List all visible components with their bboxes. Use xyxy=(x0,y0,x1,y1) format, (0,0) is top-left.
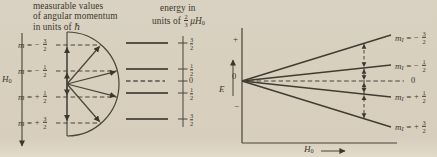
m-symbol: m xyxy=(18,92,25,102)
fraction: 32 xyxy=(190,37,193,51)
sign: + xyxy=(35,92,40,102)
fraction-denominator: 2 xyxy=(190,44,193,52)
e-symbol-label: E xyxy=(219,84,225,94)
h-symbol: H xyxy=(2,74,9,84)
fraction: 32 xyxy=(422,120,425,134)
sign: − xyxy=(414,61,419,71)
tick-label-3-2-lower: 32 xyxy=(189,110,193,127)
m-symbol: m xyxy=(395,92,402,102)
mI-label-plus-3-2: mI=+32 xyxy=(395,120,426,134)
fraction-denominator: 3 xyxy=(184,20,187,28)
fraction-denominator: 2 xyxy=(43,122,46,130)
fraction: 32 xyxy=(190,113,193,127)
m-symbol: m xyxy=(18,40,25,50)
right-zero-label: 0 xyxy=(411,76,415,86)
fraction-denominator: 2 xyxy=(190,94,193,102)
energy-header-line1: energy in xyxy=(160,3,196,13)
m-label-minus-3-2: m=−32 xyxy=(18,38,47,52)
m-symbol: m xyxy=(18,118,25,128)
m-label-plus-1-2: m=+12 xyxy=(18,90,47,104)
left-header-line2: of angular momentum xyxy=(33,11,118,21)
m-symbol: m xyxy=(395,122,402,132)
fraction-denominator: 2 xyxy=(422,65,425,73)
fraction: 12 xyxy=(43,64,46,78)
m-symbol: m xyxy=(395,61,402,71)
minus-sign-label: − xyxy=(234,101,239,111)
energy-level-lines xyxy=(126,43,168,119)
units-of-text: units of xyxy=(152,16,181,26)
sign: − xyxy=(35,66,40,76)
tick-label-3-2-upper: 32 xyxy=(189,34,193,51)
two-thirds-fraction: 23 xyxy=(184,14,187,28)
equals-sign: = xyxy=(406,61,411,71)
sign: − xyxy=(35,40,40,50)
plus-sign-label: + xyxy=(233,34,238,44)
m-level-dashed-lines xyxy=(56,45,117,123)
fraction-denominator: 2 xyxy=(43,96,46,104)
equals-sign: = xyxy=(27,92,32,102)
I-subscript: I xyxy=(402,96,404,102)
x-axis-label-h0: H0 xyxy=(304,144,314,154)
left-header: measurable values of angular momentum in… xyxy=(33,1,118,32)
mI-label-minus-1-2: mI=−12 xyxy=(395,59,426,73)
e-zero-label: 0 xyxy=(232,72,236,82)
equals-sign: = xyxy=(27,118,32,128)
equals-sign: = xyxy=(406,92,411,102)
fraction-denominator: 2 xyxy=(43,44,46,52)
m-label-minus-1-2: m=−12 xyxy=(18,64,47,78)
sign: + xyxy=(35,118,40,128)
energy-level-column xyxy=(126,36,188,127)
equals-sign: = xyxy=(27,66,32,76)
angular-momentum-vectors xyxy=(67,47,116,122)
energy-vs-field-plot xyxy=(242,28,404,151)
fraction: 12 xyxy=(422,90,425,104)
energy-header-line2: units of23μH0 xyxy=(152,14,205,28)
sign: + xyxy=(414,92,419,102)
fraction: 32 xyxy=(422,31,425,45)
fraction-denominator: 2 xyxy=(190,120,193,128)
fraction: 32 xyxy=(43,38,46,52)
equals-sign: = xyxy=(406,33,411,43)
mu-h-symbol: μH xyxy=(190,16,202,26)
mI-label-plus-1-2: mI=+12 xyxy=(395,90,426,104)
fraction-denominator: 2 xyxy=(422,126,425,134)
equals-sign: = xyxy=(406,122,411,132)
field-label-h0: H0 xyxy=(2,74,12,84)
I-subscript: I xyxy=(402,126,404,132)
m-symbol: m xyxy=(395,33,402,43)
h-subscript: 0 xyxy=(311,148,314,154)
I-subscript: I xyxy=(402,65,404,71)
fraction: 12 xyxy=(422,59,425,73)
fraction: 12 xyxy=(190,87,193,101)
m-label-plus-3-2: m=+32 xyxy=(18,116,47,130)
h-subscript: 0 xyxy=(202,20,205,26)
fraction: 32 xyxy=(43,116,46,130)
h-subscript: 0 xyxy=(9,78,12,84)
fraction-denominator: 2 xyxy=(422,96,425,104)
semicircle-arc xyxy=(67,32,119,136)
m-symbol: m xyxy=(18,66,25,76)
I-subscript: I xyxy=(402,37,404,43)
tick-label-1-2-lower: 12 xyxy=(189,84,193,101)
mI-label-minus-3-2: mI=−32 xyxy=(395,31,426,45)
fraction-denominator: 2 xyxy=(43,70,46,78)
fraction-denominator: 2 xyxy=(422,37,425,45)
equals-sign: = xyxy=(27,40,32,50)
left-header-line3: in units of ℏ xyxy=(33,22,118,32)
figure: measurable values of angular momentum in… xyxy=(0,0,437,157)
sign: + xyxy=(414,122,419,132)
fraction: 12 xyxy=(43,90,46,104)
sign: − xyxy=(414,33,419,43)
h-symbol: H xyxy=(304,144,311,154)
left-header-line1: measurable values xyxy=(33,1,118,11)
